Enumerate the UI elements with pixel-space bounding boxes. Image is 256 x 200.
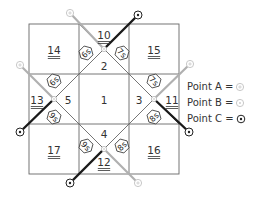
legend-item-point-c: Point C = — [187, 111, 246, 127]
point-b-icon — [151, 96, 156, 101]
region-label: 5 — [65, 94, 72, 106]
point-a-icon — [134, 179, 141, 186]
region-label: 16 — [147, 144, 161, 156]
region-label: 17 — [47, 144, 60, 156]
point-b-icon — [51, 96, 56, 101]
legend-label: Point B = — [187, 95, 233, 111]
point-b-icon — [101, 146, 106, 151]
region-label: 2 — [101, 60, 108, 72]
region-label: 14 — [47, 44, 61, 56]
point-a-icon — [16, 61, 23, 68]
legend-item-point-b: Point B = — [187, 95, 246, 111]
point-c-icon — [236, 114, 246, 124]
legend-item-point-a: Point A = — [187, 79, 246, 95]
legend-label: Point C = — [187, 111, 234, 127]
region-label: 3 — [136, 94, 143, 106]
region-label: 11 — [165, 94, 178, 106]
region-label: 4 — [101, 128, 108, 140]
point-c-icon — [16, 128, 24, 136]
region-label: 13 — [30, 94, 43, 106]
region-label: 1 — [101, 94, 108, 106]
point-b-icon — [101, 46, 106, 51]
point-c-icon — [185, 128, 193, 136]
point-a-icon — [186, 60, 193, 67]
legend: Point A = Point B = Point C = — [187, 79, 246, 127]
region-label: 12 — [97, 156, 110, 168]
point-a-icon — [235, 82, 245, 92]
point-c-icon — [66, 179, 74, 187]
region-label: 15 — [147, 44, 160, 56]
legend-label: Point A = — [187, 79, 233, 95]
point-b-icon — [235, 98, 245, 108]
point-a-icon — [66, 9, 73, 16]
point-c-icon — [134, 11, 142, 19]
region-label: 10 — [97, 29, 110, 41]
